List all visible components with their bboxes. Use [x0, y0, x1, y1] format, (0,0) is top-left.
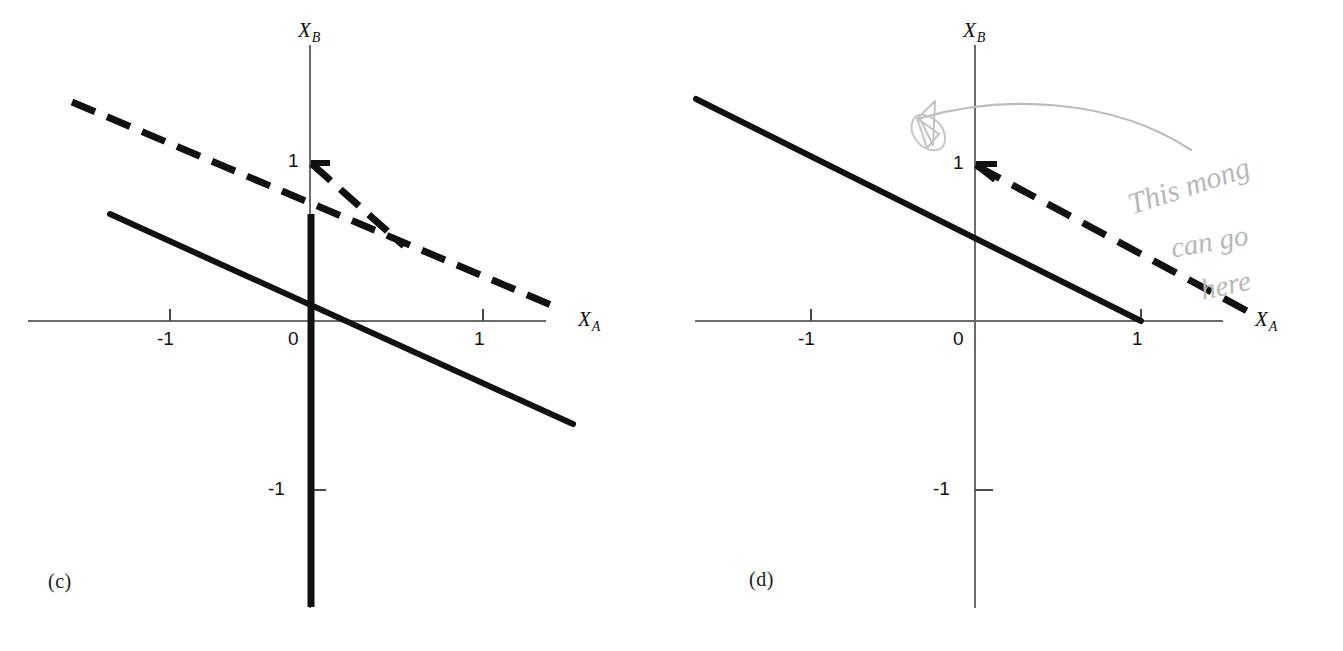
panel-d: XB XA -1 0 1 1 -1 This mong can go here …: [671, 0, 1343, 651]
x-tick-label-minus-1-d: -1: [798, 328, 815, 350]
panel-label-c: (c): [48, 570, 72, 593]
panel-c-canvas: [0, 0, 671, 651]
y-tick-label-minus-1-d: -1: [933, 478, 950, 500]
x-tick-label-0-c: 0: [288, 328, 299, 350]
x-tick-label-1-c: 1: [474, 328, 485, 350]
y-tick-label-1-d: 1: [953, 152, 964, 174]
pencil-curved-arrow: [921, 104, 1191, 150]
dashed-constraint-line: [977, 166, 1249, 312]
panel-d-canvas: [671, 0, 1343, 651]
x-axis-name-c: XA: [578, 307, 600, 335]
y-tick-label-minus-1-c: -1: [268, 478, 285, 500]
panel-c: XB XA -1 0 1 1 -1 (c): [0, 0, 671, 651]
solid-budget-line: [696, 99, 1141, 321]
solid-budget-line: [110, 214, 573, 424]
panel-label-d: (d): [749, 568, 774, 591]
y-axis-name-c: XB: [298, 18, 320, 46]
x-tick-label-minus-1-c: -1: [157, 328, 174, 350]
x-axis-name-d: XA: [1255, 307, 1277, 335]
pencil-arrowhead: [917, 101, 939, 148]
pencil-arrowhead-loop: [912, 115, 945, 150]
y-axis-name-d: XB: [963, 18, 985, 46]
y-tick-label-1-c: 1: [288, 150, 299, 172]
x-tick-label-1-d: 1: [1132, 328, 1143, 350]
x-tick-label-0-d: 0: [953, 328, 964, 350]
figure-root: XB XA -1 0 1 1 -1 (c): [0, 0, 1343, 651]
